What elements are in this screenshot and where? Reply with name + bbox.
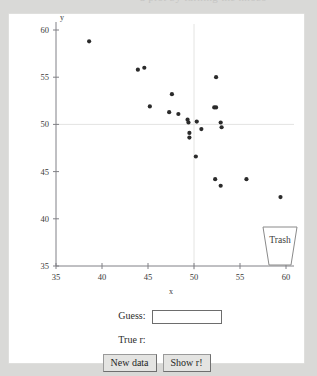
data-point[interactable] bbox=[219, 120, 223, 124]
x-tick-label: 45 bbox=[144, 272, 153, 282]
data-point[interactable] bbox=[176, 112, 180, 116]
data-point[interactable] bbox=[219, 184, 223, 188]
x-tick-label: 60 bbox=[282, 272, 291, 282]
data-point[interactable] bbox=[213, 177, 217, 181]
new-data-button[interactable]: New data bbox=[103, 354, 157, 372]
y-tick-label: 55 bbox=[41, 72, 50, 82]
data-point[interactable] bbox=[194, 154, 198, 158]
data-point[interactable] bbox=[220, 125, 224, 129]
controls-form: Guess: True r: New data Show r! bbox=[9, 306, 304, 372]
guess-input-slot bbox=[152, 306, 230, 324]
applet-panel: 354045505560354045505560yx Trash Guess: … bbox=[9, 14, 304, 363]
true-r-row: True r: bbox=[9, 330, 304, 348]
x-tick-label: 50 bbox=[190, 272, 199, 282]
y-tick-label: 35 bbox=[41, 261, 50, 271]
data-point[interactable] bbox=[186, 120, 190, 124]
trash-bin[interactable]: Trash bbox=[257, 221, 303, 271]
data-point[interactable] bbox=[214, 105, 218, 109]
y-tick-label: 45 bbox=[41, 167, 50, 177]
data-point[interactable] bbox=[148, 104, 152, 108]
data-point[interactable] bbox=[244, 177, 248, 181]
data-point[interactable] bbox=[170, 92, 174, 96]
x-axis-label: x bbox=[169, 287, 173, 296]
data-point[interactable] bbox=[136, 68, 140, 72]
app-root: a plot by turning the knobs 354045505560… bbox=[0, 0, 317, 376]
x-tick-label: 35 bbox=[52, 272, 61, 282]
data-point[interactable] bbox=[87, 39, 91, 43]
show-r-button[interactable]: Show r! bbox=[163, 354, 211, 372]
y-tick-label: 40 bbox=[41, 214, 50, 224]
button-row: New data Show r! bbox=[9, 354, 304, 372]
y-tick-label: 50 bbox=[41, 119, 50, 129]
data-point[interactable] bbox=[195, 119, 199, 123]
guess-row: Guess: bbox=[9, 306, 304, 324]
cutoff-heading-text: a plot by turning the knobs bbox=[140, 0, 266, 3]
x-tick-label: 40 bbox=[98, 272, 107, 282]
true-r-label: True r: bbox=[84, 334, 152, 345]
y-tick-label: 60 bbox=[41, 25, 50, 35]
y-axis-label: y bbox=[60, 14, 64, 22]
data-point[interactable] bbox=[142, 66, 146, 70]
guess-input[interactable] bbox=[152, 310, 222, 324]
data-point[interactable] bbox=[199, 127, 203, 131]
data-point[interactable] bbox=[187, 131, 191, 135]
trash-label: Trash bbox=[257, 235, 303, 245]
data-point[interactable] bbox=[187, 136, 191, 140]
data-point[interactable] bbox=[278, 195, 282, 199]
true-r-value-slot bbox=[152, 330, 230, 348]
data-point[interactable] bbox=[167, 110, 171, 114]
data-point[interactable] bbox=[214, 75, 218, 79]
x-tick-label: 55 bbox=[236, 272, 245, 282]
cutoff-heading-strip: a plot by turning the knobs bbox=[0, 0, 317, 13]
guess-label: Guess: bbox=[84, 310, 152, 321]
